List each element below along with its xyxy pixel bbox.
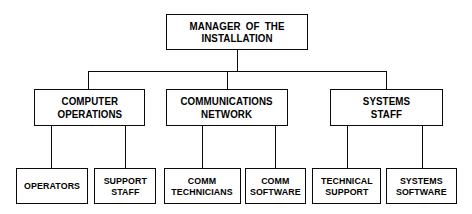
node-manager: MANAGER OF THE INSTALLATION [166, 14, 308, 50]
connector-drop-systems-staff [386, 71, 387, 89]
node-technical-support-label: TECHNICAL SUPPORT [321, 175, 373, 197]
connector-tier1-bus [88, 71, 387, 72]
node-comm-software-label: COMM SOFTWARE [250, 175, 301, 197]
node-operators-label: OPERATORS [24, 180, 80, 191]
connector-drop-comm-technicians [202, 126, 203, 168]
node-communications-network-label: COMMUNICATIONS NETWORK [181, 95, 273, 120]
node-communications-network: COMMUNICATIONS NETWORK [166, 89, 288, 126]
connector-manager-trunk [237, 50, 238, 72]
node-technical-support: TECHNICAL SUPPORT [312, 168, 381, 204]
connector-drop-communications-network [227, 71, 228, 89]
node-systems-software: SYSTEMS SOFTWARE [386, 168, 457, 204]
node-systems-staff: SYSTEMS STAFF [330, 89, 443, 126]
connector-drop-technical-support [347, 126, 348, 168]
connector-drop-systems-software [422, 126, 423, 168]
node-comm-technicians-label: COMM TECHNICIANS [172, 175, 233, 197]
node-manager-label: MANAGER OF THE INSTALLATION [190, 20, 285, 45]
connector-drop-operators [51, 126, 52, 168]
connector-drop-comm-software [275, 126, 276, 168]
node-systems-staff-label: SYSTEMS STAFF [363, 95, 410, 120]
node-operators: OPERATORS [16, 168, 88, 204]
node-support-staff: SUPPORT STAFF [94, 168, 156, 204]
node-support-staff-label: SUPPORT STAFF [103, 175, 146, 197]
node-computer-operations-label: COMPUTER OPERATIONS [57, 95, 122, 120]
org-chart: MANAGER OF THE INSTALLATION COMPUTER OPE… [0, 0, 472, 214]
node-comm-software: COMM SOFTWARE [245, 168, 306, 204]
node-systems-software-label: SYSTEMS SOFTWARE [396, 175, 447, 197]
node-computer-operations: COMPUTER OPERATIONS [34, 89, 145, 126]
connector-drop-computer-operations [88, 71, 89, 89]
connector-drop-support-staff [125, 126, 126, 168]
node-comm-technicians: COMM TECHNICIANS [164, 168, 241, 204]
